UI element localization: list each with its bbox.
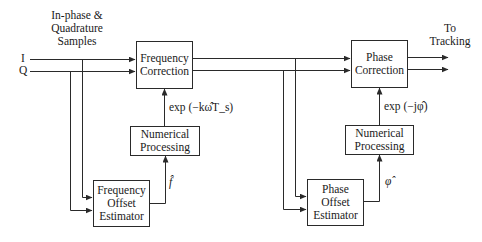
block-label-line: Correction <box>140 65 189 78</box>
input-label-line: In-phase & <box>44 9 110 22</box>
input-label-line: Quadrature <box>44 22 110 35</box>
block-label-line: Numerical <box>355 127 404 140</box>
block-label-line: Correction <box>355 64 404 77</box>
output-label: To Tracking <box>425 22 475 48</box>
input-samples-label: In-phase & Quadrature Samples <box>44 9 110 48</box>
frequency-offset-estimator-block: Frequency Offset Estimator <box>93 180 150 227</box>
phase-correction-signal-label: exp (−jφ̂) <box>384 100 427 113</box>
block-label-line: Processing <box>140 141 190 154</box>
block-label-line: Phase <box>366 51 393 64</box>
q-input-label: Q <box>19 64 27 77</box>
input-label-line: Samples <box>44 35 110 48</box>
block-label-line: Estimator <box>99 210 144 223</box>
block-label-line: Numerical <box>141 128 190 141</box>
block-label-line: Phase <box>322 183 349 196</box>
block-label-line: Processing <box>355 140 405 153</box>
freq-estimate-label: f̂ <box>169 176 172 189</box>
phase-correction-block: Phase Correction <box>351 40 408 88</box>
freq-correction-signal-label: exp (−kω̂T_s) <box>169 101 233 114</box>
output-label-line: To <box>425 22 475 35</box>
block-label-line: Frequency <box>97 184 146 197</box>
output-label-line: Tracking <box>425 35 475 48</box>
phase-offset-estimator-block: Phase Offset Estimator <box>307 179 364 226</box>
block-label-line: Frequency <box>140 52 189 65</box>
block-label-line: Offset <box>107 197 136 210</box>
block-label-line: Offset <box>321 196 350 209</box>
frequency-correction-block: Frequency Correction <box>136 41 193 89</box>
phase-estimate-label: φ̂ <box>385 175 391 188</box>
numerical-processing-block-2: Numerical Processing <box>345 125 414 155</box>
block-label-line: Estimator <box>313 209 358 222</box>
numerical-processing-block-1: Numerical Processing <box>130 126 200 156</box>
